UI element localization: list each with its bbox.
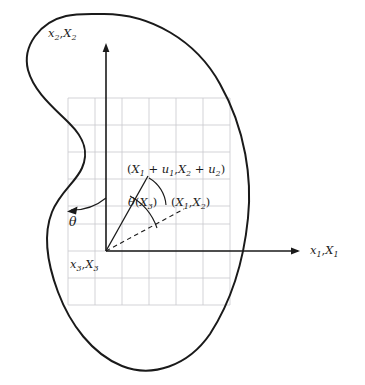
figure-canvas	[0, 0, 365, 385]
y-axis	[103, 43, 110, 251]
y-axis-label: x2,X2	[48, 28, 77, 42]
theta-label: θ	[69, 216, 77, 229]
deformation-figure: x2,X2 x1,X1 x3,X3 (X1 + u1,X2 + u2) θ(X3…	[0, 0, 365, 385]
theta-plain-glyph: θ	[69, 214, 77, 229]
deformed-label-X2: X	[178, 162, 186, 176]
y-axis-label-sub2: 2	[71, 33, 76, 42]
reference-label-X1: X	[176, 195, 184, 209]
deformed-label-u2: u	[208, 162, 215, 176]
deformable-body-outline	[27, 14, 249, 371]
theta-arg-X: X	[139, 195, 147, 209]
reference-label-X2: X	[192, 195, 200, 209]
z-axis-origin-label: x3,X3	[70, 259, 99, 273]
deformed-position-vector	[106, 176, 148, 251]
deformed-point-label: (X1 + u1,X2 + u2)	[127, 164, 225, 178]
x-axis-arrowhead	[291, 248, 300, 255]
z-axis-label-sub2: 3	[93, 264, 98, 273]
reference-point-label: (X1,X2)	[171, 197, 210, 211]
x-axis-label: x1,X1	[310, 245, 339, 259]
deformed-label-X1: X	[132, 162, 140, 176]
x-axis-label-sub2: 1	[333, 250, 338, 259]
y-axis-arrowhead	[103, 43, 110, 52]
theta-glyph: θ	[128, 195, 135, 209]
theta-of-X3-label: θ(X3)	[128, 197, 157, 211]
